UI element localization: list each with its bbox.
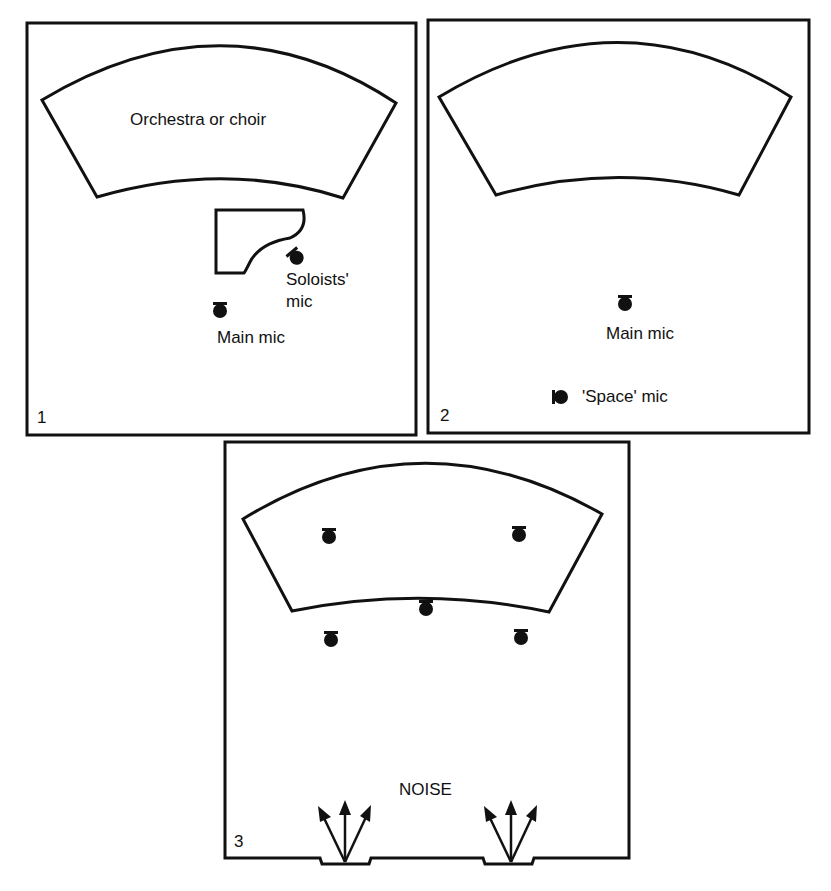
mic-icon-front-left: [324, 631, 338, 647]
main-mic-label: Main mic: [606, 324, 674, 344]
panel-2-frame: [428, 20, 809, 433]
stage-area-multi-mic: [243, 463, 602, 612]
soloists-mic-label-line2: mic: [286, 292, 312, 312]
space-mic-label: 'Space' mic: [582, 387, 668, 407]
main-mic-icon: [618, 295, 632, 311]
piano-shape: [216, 210, 304, 273]
panel-number-1: 1: [37, 408, 46, 428]
panel-1-frame: [27, 23, 416, 435]
main-mic-label: Main mic: [217, 328, 285, 348]
diagram-canvas: [0, 0, 831, 891]
mic-icon-front-right: [514, 629, 528, 645]
panel-number-2: 2: [440, 406, 449, 426]
space-mic-icon: [552, 390, 568, 404]
panel-number-3: 3: [234, 832, 243, 852]
panel-3: [225, 442, 629, 864]
main-mic-icon: [213, 302, 227, 318]
noise-arrows-right-icon: [484, 800, 537, 862]
stage-area-empty: [439, 43, 791, 196]
soloists-mic-icon: [285, 246, 306, 267]
panel-2: [428, 20, 809, 433]
stage-label: Orchestra or choir: [130, 110, 266, 130]
noise-arrows-left-icon: [318, 800, 371, 862]
mic-icon-center: [419, 600, 433, 616]
panel-1: [27, 23, 416, 435]
mic-icon-stage-left: [322, 528, 336, 544]
mic-icon-stage-right: [512, 526, 526, 542]
noise-label: NOISE: [399, 780, 452, 800]
soloists-mic-label: Soloists': [286, 270, 349, 290]
panel-3-frame: [225, 442, 629, 864]
